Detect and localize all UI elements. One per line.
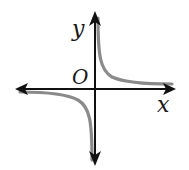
- y-axis-label: y: [71, 16, 85, 41]
- curve-branch-quadrant-1: [98, 18, 172, 84]
- curve-branch-quadrant-3: [20, 92, 92, 160]
- graph-canvas: y O x: [0, 0, 189, 170]
- x-axis-label: x: [157, 92, 170, 117]
- origin-label: O: [72, 65, 88, 89]
